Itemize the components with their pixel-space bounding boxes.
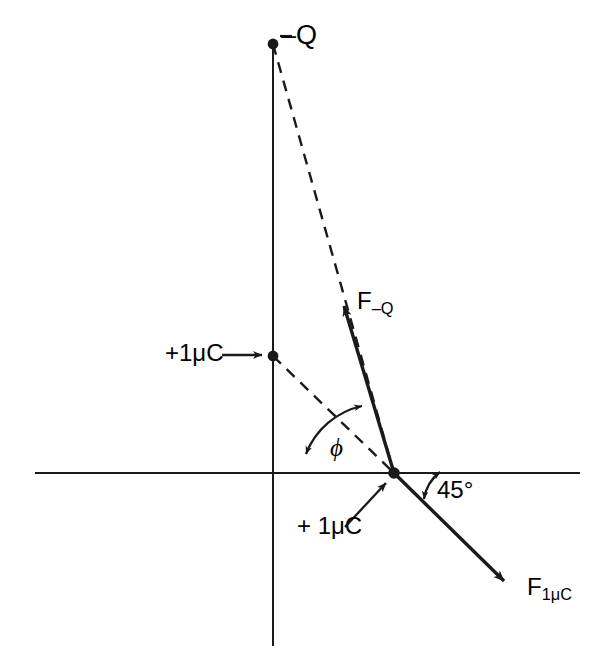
test-charge-point [388, 467, 400, 479]
negative-charge-label: –Q [281, 22, 317, 49]
force-1uc-symbol: F [527, 573, 542, 600]
force-vector-diagram: –Q +1μC F–Q ϕ + 1μC 45° F1μC [0, 0, 602, 667]
force-1uc-subscript: 1μC [542, 585, 572, 603]
negative-charge-point [268, 39, 279, 50]
source-charge-left-label: +1μC [165, 341, 224, 365]
angle-45-label: 45° [437, 478, 473, 502]
force-1uc-label: F1μC [527, 575, 572, 602]
force-negative-q-vector [344, 306, 394, 473]
phi-angle-label: ϕ [330, 435, 343, 460]
test-charge-label: + 1μC [297, 514, 362, 538]
force-negative-q-subscript: –Q [372, 299, 394, 317]
force-negative-q-symbol: F [357, 287, 372, 314]
force-negative-q-label: F–Q [357, 289, 393, 316]
diagram-canvas [0, 0, 602, 667]
source-charge-left-point [268, 351, 279, 362]
